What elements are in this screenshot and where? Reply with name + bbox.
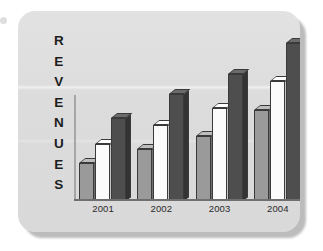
y-axis-label-letter: U — [54, 134, 64, 155]
bar-2004-series-3-dark — [286, 37, 300, 201]
bar-side-face — [184, 90, 189, 201]
y-axis-label-letter: S — [54, 175, 63, 196]
bar-2002-series-2-white — [153, 119, 168, 201]
x-tick-label-2001: 2001 — [74, 203, 132, 221]
bar-groups — [74, 27, 300, 201]
bar-2002-series-3-dark — [169, 88, 184, 201]
chart-card: R E V E N U E S 2001200220032004 — [18, 11, 300, 232]
y-axis-label-letter: R — [54, 31, 64, 52]
bar-front-face — [228, 74, 243, 201]
bar-front-face — [286, 43, 300, 201]
bar-group-2003 — [191, 27, 249, 201]
y-axis-label-letter: E — [54, 52, 63, 73]
bar-front-face — [212, 108, 227, 201]
y-axis-label: R E V E N U E S — [48, 31, 70, 196]
chart-image: R E V E N U E S 2001200220032004 — [0, 0, 323, 251]
bar-2004-series-1-gray — [254, 104, 269, 201]
bar-group-2004 — [249, 27, 300, 201]
bar-side-face — [126, 114, 131, 201]
bar-2003-series-2-white — [212, 102, 227, 201]
y-axis-label-letter: E — [54, 93, 63, 114]
bar-group-2001 — [74, 27, 132, 201]
bar-2003-series-3-dark — [228, 68, 243, 201]
bar-group-2002 — [132, 27, 190, 201]
y-axis-label-letter: N — [54, 113, 64, 134]
bar-front-face — [270, 81, 285, 201]
bar-2001-series-1-gray — [79, 157, 94, 201]
y-axis-label-letter: E — [54, 155, 63, 176]
bar-2004-series-2-white — [270, 75, 285, 201]
y-axis-label-letter: V — [54, 72, 63, 93]
bar-front-face — [196, 136, 211, 201]
bar-2001-series-3-dark — [111, 112, 126, 201]
bar-2001-series-2-white — [95, 138, 110, 201]
edge-bullet-artifact — [0, 17, 7, 24]
bar-2002-series-1-gray — [137, 143, 152, 201]
x-axis-tick-labels: 2001200220032004 — [74, 203, 300, 221]
x-axis-line — [74, 199, 300, 201]
bar-front-face — [153, 125, 168, 201]
bar-front-face — [137, 149, 152, 201]
bar-front-face — [169, 94, 184, 201]
bar-front-face — [95, 144, 110, 201]
x-tick-label-2003: 2003 — [191, 203, 249, 221]
bar-top-face — [286, 38, 300, 43]
bar-front-face — [111, 118, 126, 201]
bar-front-face — [254, 110, 269, 201]
x-tick-label-2004: 2004 — [249, 203, 300, 221]
bar-front-face — [79, 163, 94, 201]
bar-side-face — [243, 70, 248, 201]
bar-2003-series-1-gray — [196, 130, 211, 201]
x-tick-label-2002: 2002 — [132, 203, 190, 221]
